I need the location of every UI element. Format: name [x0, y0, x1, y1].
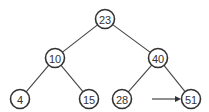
edge-10-15 — [61, 65, 83, 91]
node-label: 10 — [49, 53, 61, 65]
node-label: 51 — [185, 94, 197, 106]
edge-10-4 — [26, 65, 49, 92]
tree-node-40: 40 — [149, 49, 168, 68]
node-label: 40 — [152, 53, 164, 65]
edge-40-28 — [128, 65, 151, 92]
edge-23-40 — [113, 25, 151, 53]
node-label: 23 — [99, 14, 111, 26]
node-label: 15 — [83, 94, 95, 106]
tree-node-28: 28 — [113, 90, 132, 109]
tree-node-10: 10 — [46, 49, 65, 68]
edge-23-10 — [62, 25, 97, 52]
tree-node-4: 4 — [11, 90, 30, 109]
tree-nodes: 2310404152851 — [11, 10, 201, 109]
tree-node-23: 23 — [96, 10, 115, 29]
node-label: 28 — [116, 94, 128, 106]
arrow-head-icon — [175, 96, 181, 102]
node-label: 4 — [17, 94, 23, 106]
edge-40-51 — [164, 65, 185, 91]
binary-tree-diagram: 2310404152851 — [0, 0, 209, 112]
tree-node-15: 15 — [80, 90, 99, 109]
tree-node-51: 51 — [182, 90, 201, 109]
pointer-arrow — [152, 96, 181, 102]
